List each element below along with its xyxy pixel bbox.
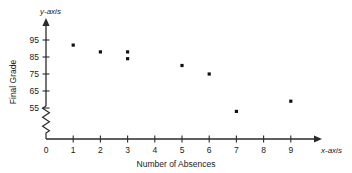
x-axis-arrowhead <box>314 135 322 142</box>
x-tick-label: 0 <box>44 145 49 155</box>
y-tick-label: 75 <box>30 69 40 79</box>
y-axis-title: Final Grade <box>8 60 18 105</box>
x-tick-label: 3 <box>125 145 130 155</box>
data-point <box>180 64 183 67</box>
y-tick-label: 65 <box>30 86 40 96</box>
data-point <box>126 50 129 53</box>
y-axis-name-label: y-axis <box>39 7 61 16</box>
x-tick-label: 8 <box>261 145 266 155</box>
plot-canvas: 0123456789 5565758595 x-axis y-axis Numb… <box>0 0 352 173</box>
axes-group <box>42 18 322 143</box>
y-tick-label: 95 <box>30 35 40 45</box>
scatter-plot-figure: 0123456789 5565758595 x-axis y-axis Numb… <box>0 0 352 173</box>
x-tick-label: 4 <box>152 145 157 155</box>
data-point <box>126 57 129 60</box>
x-axis-name-label: x-axis <box>320 146 342 155</box>
y-axis-break-symbol <box>43 106 50 139</box>
x-tick-label: 7 <box>234 145 239 155</box>
x-tick-label-group: 0123456789 <box>44 145 294 155</box>
tick-marks-group <box>43 40 291 143</box>
data-points-group <box>72 44 293 114</box>
y-tick-label: 55 <box>30 103 40 113</box>
y-axis-arrowhead <box>42 18 49 26</box>
data-point <box>72 44 75 47</box>
x-tick-label: 2 <box>98 145 103 155</box>
data-point <box>208 72 211 75</box>
x-tick-label: 1 <box>71 145 76 155</box>
x-tick-label: 9 <box>288 145 293 155</box>
y-tick-label-group: 5565758595 <box>30 35 40 113</box>
x-tick-label: 5 <box>180 145 185 155</box>
data-point <box>289 100 292 103</box>
x-tick-label: 6 <box>207 145 212 155</box>
data-point <box>235 110 238 113</box>
y-tick-label: 85 <box>30 52 40 62</box>
x-axis-title: Number of Absences <box>137 159 216 169</box>
data-point <box>99 50 102 53</box>
